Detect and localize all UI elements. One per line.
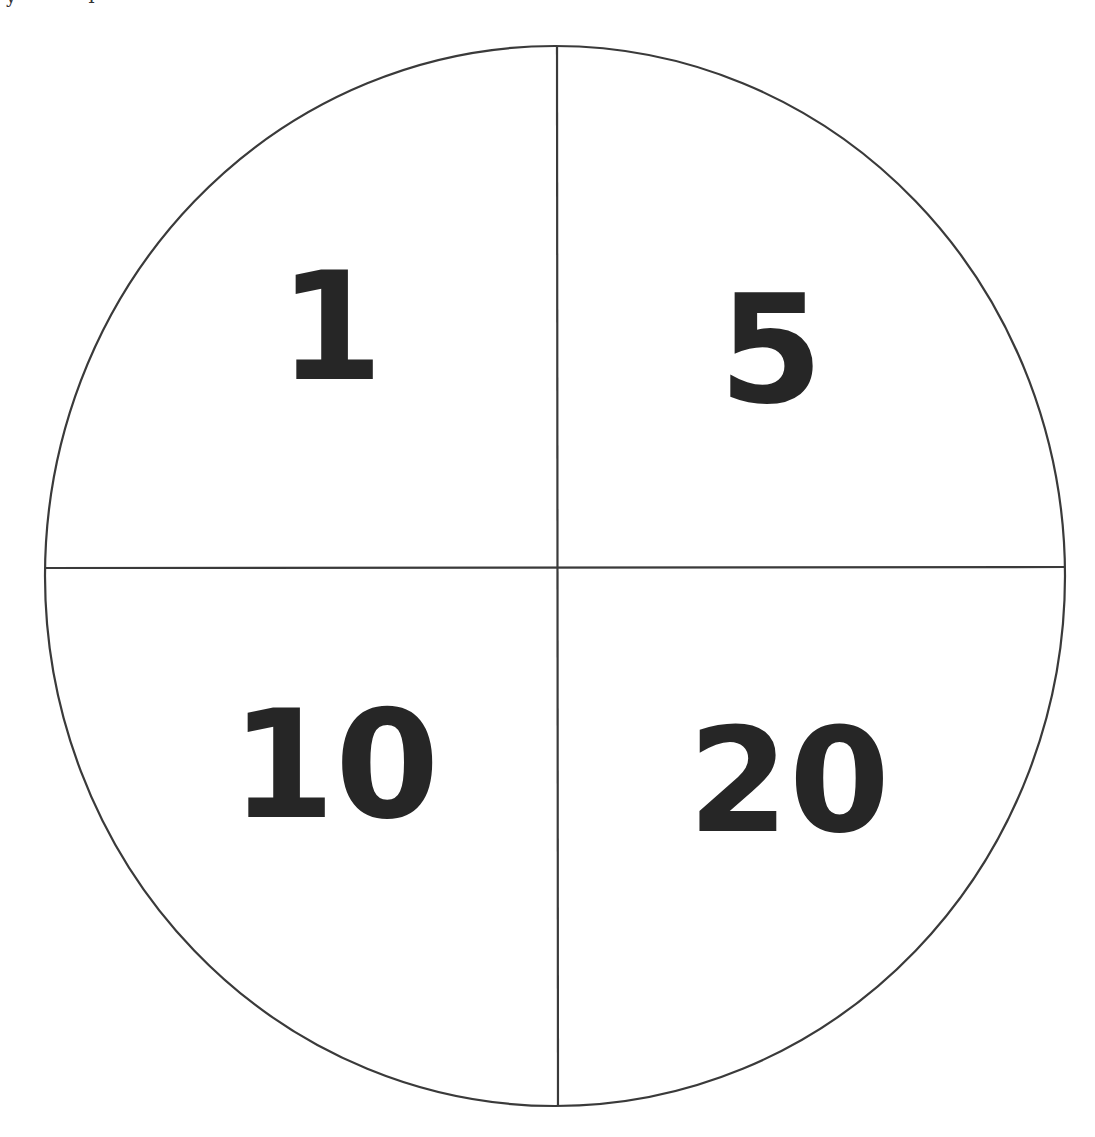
quadrant-label-top-left: 1	[279, 240, 383, 414]
quadrant-label-bottom-right: 20	[688, 696, 890, 865]
quadrant-label-top-right: 5	[719, 263, 823, 437]
vertical-divider	[557, 46, 558, 1106]
quadrant-label-bottom-left: 10	[231, 678, 440, 852]
horizontal-divider	[45, 567, 1065, 568]
circle-outline	[45, 46, 1065, 1106]
spinner-diagram: 1 5 10 20	[0, 0, 1095, 1137]
